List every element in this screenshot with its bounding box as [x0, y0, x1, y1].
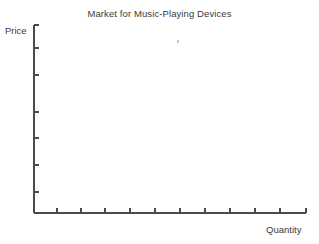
y-axis-ticks	[34, 48, 39, 192]
x-axis-ticks	[57, 208, 280, 213]
plot-area	[0, 0, 319, 244]
scan-artifact-speck	[177, 40, 179, 43]
chart-screenshot: Market for Music-Playing Devices Price Q…	[0, 0, 319, 244]
axis-group	[34, 25, 306, 213]
